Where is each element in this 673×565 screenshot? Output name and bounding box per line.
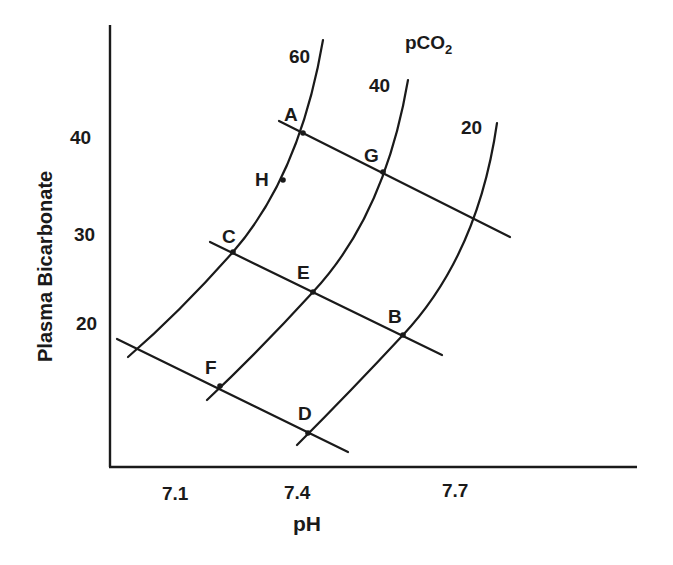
- buffer-line-lower: [117, 339, 348, 452]
- isobar-60-label: 60: [289, 46, 310, 67]
- y-tick-40: 40: [70, 127, 91, 148]
- point-E-label: E: [297, 262, 310, 283]
- isobar-20-label: 20: [461, 117, 482, 138]
- x-tick-7.1: 7.1: [162, 483, 189, 504]
- buffer-line-middle: [210, 242, 442, 355]
- point-B-dot: [400, 332, 406, 338]
- point-G-dot: [380, 169, 386, 175]
- pco2-title-subscript: 2: [445, 42, 452, 57]
- point-C-dot: [230, 249, 236, 255]
- point-D-label: D: [298, 403, 312, 424]
- point-A-dot: [300, 130, 306, 136]
- y-tick-30: 30: [74, 224, 95, 245]
- point-C-label: C: [222, 226, 236, 247]
- isobar-60-curve: [128, 40, 323, 357]
- point-H-label: H: [255, 169, 269, 190]
- point-A-label: A: [284, 104, 298, 125]
- point-G-label: G: [364, 145, 379, 166]
- point-B-label: B: [388, 306, 402, 327]
- x-tick-7.7: 7.7: [442, 480, 468, 501]
- davenport-diagram: A G H C E B F D 60 40 20 pCO2 40 30 20 7…: [0, 0, 673, 565]
- point-F-dot: [217, 383, 223, 389]
- isobar-20-curve: [297, 123, 497, 445]
- point-F-label: F: [205, 357, 217, 378]
- y-axis-title: Plasma Bicarbonate: [34, 171, 56, 362]
- isobar-40-curve: [207, 80, 408, 400]
- isobar-40-label: 40: [369, 75, 390, 96]
- y-tick-20: 20: [76, 313, 97, 334]
- pco2-title: pCO2: [405, 32, 452, 57]
- point-H-dot: [280, 177, 286, 183]
- point-E-dot: [310, 289, 316, 295]
- x-axis-title: pH: [293, 512, 321, 535]
- x-tick-7.4: 7.4: [284, 482, 311, 503]
- pco2-title-main: pCO: [405, 32, 445, 53]
- point-D-dot: [305, 430, 311, 436]
